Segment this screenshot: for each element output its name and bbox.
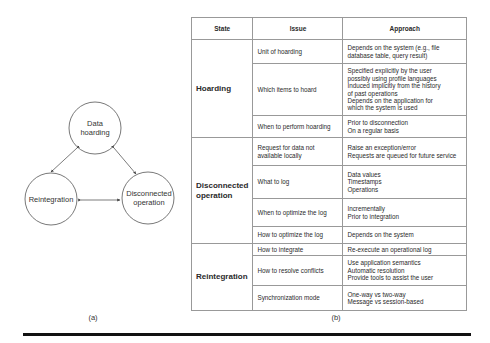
table-header-row: State Issue Approach <box>192 18 467 40</box>
bottom-rule <box>23 333 471 336</box>
approach-cell: Raise an exception/error Requests are qu… <box>343 138 467 166</box>
approach-cell: Prior to disconnection On a regular basi… <box>343 116 467 138</box>
node-label-data-hoarding: Data hoarding <box>80 119 109 137</box>
approach-cell: Incrementally Prior to integration <box>343 199 467 227</box>
issue-cell: Which items to hoard <box>253 64 343 116</box>
issue-cell: How to integrate <box>253 244 343 256</box>
approach-cell: Use application semantics Automatic reso… <box>343 256 467 286</box>
issue-cell: Unit of hoarding <box>253 40 343 64</box>
issue-cell: Request for data not available locally <box>253 138 343 166</box>
issue-cell: What to log <box>253 166 343 199</box>
approach-cell: Specified explicitly by the user possibl… <box>343 64 467 116</box>
table-row: Reintegration How to integrate Re-execut… <box>192 244 467 256</box>
state-diagram: Data hoarding Reintegration Disconnected… <box>0 0 190 343</box>
header-issue: Issue <box>253 18 343 40</box>
edge-hoarding-reintegration <box>51 148 77 172</box>
issue-cell: When to perform hoarding <box>253 116 343 138</box>
state-hoarding: Hoarding <box>192 40 253 138</box>
issue-cell: How to resolve conflicts <box>253 256 343 286</box>
approach-cell: Depends on the system (e.g., file databa… <box>343 40 467 64</box>
approach-cell: Depends on the system <box>343 227 467 244</box>
node-label-disconnected-operation: Disconnected operation <box>126 189 171 207</box>
caption-b: (b) <box>331 313 340 322</box>
header-state: State <box>192 18 253 40</box>
approach-cell: Data values Timestamps Operations <box>343 166 467 199</box>
approach-cell: One-way vs two-way Message vs session-ba… <box>343 286 467 311</box>
approach-cell: Re-execute an operational log <box>343 244 467 256</box>
state-disconnected-operation: Disconnected operation <box>192 138 253 244</box>
table-row: Disconnected operation Request for data … <box>192 138 467 166</box>
issue-cell: Synchronization mode <box>253 286 343 311</box>
issues-table: State Issue Approach Hoarding Unit of ho… <box>191 17 467 311</box>
caption-a: (a) <box>88 313 97 322</box>
state-reintegration: Reintegration <box>192 244 253 311</box>
state-diagram-graphics <box>0 0 190 343</box>
node-label-reintegration: Reintegration <box>29 195 74 204</box>
header-approach: Approach <box>343 18 467 40</box>
issue-cell: How to optimize the log <box>253 227 343 244</box>
issue-cell: When to optimize the log <box>253 199 343 227</box>
table-row: Hoarding Unit of hoarding Depends on the… <box>192 40 467 64</box>
edge-hoarding-disconnected <box>114 148 136 174</box>
